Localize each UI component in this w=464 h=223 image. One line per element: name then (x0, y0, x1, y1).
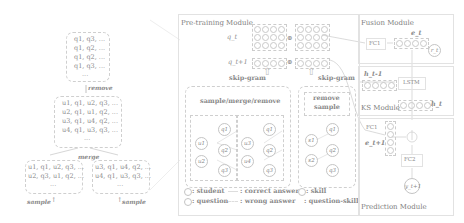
fc1-label: FC1 (369, 39, 381, 47)
question-node: q2 (326, 144, 339, 157)
student-legend-icon (184, 188, 192, 196)
fc2-label: FC2 (404, 155, 416, 163)
seq-line: u1, q1, u2, q3, ... (28, 163, 84, 171)
remove-label: remove (88, 84, 113, 92)
question-legend-icon (184, 198, 192, 206)
concat-icon: ⊕ (287, 34, 292, 42)
prediction-output-node: y_t+1 (404, 178, 420, 194)
question-node: q3 (218, 164, 231, 177)
fusion-title: Fusion Module (361, 19, 414, 27)
seq-line: u4, q1, u3, q3, ... (95, 172, 151, 180)
seq-line: u4, q1, u3, q3, ... (62, 126, 118, 134)
q-t-label: q_t (227, 33, 237, 41)
seq-line: q1, q2, ... (74, 53, 105, 61)
seq-line: q1, q3, ... (74, 35, 105, 43)
sample-label-left: sample (27, 198, 51, 206)
next-question-embedding (385, 121, 396, 156)
seq-line: q1, q3, ... (74, 62, 105, 70)
question-node: q1 (326, 123, 339, 136)
question-node: q1 (218, 123, 231, 136)
seq-line: ... (82, 70, 88, 78)
student-node: u4 (241, 155, 254, 168)
h-prev-label: h_t-1 (364, 70, 382, 78)
hidden-state-vector (398, 100, 433, 111)
fused-embedding (394, 38, 429, 49)
student-node: u2 (195, 155, 208, 168)
legend-skill: : skill (306, 187, 326, 195)
question-node: q2 (218, 144, 231, 157)
legend-correct: : correct answer (240, 187, 299, 195)
sample-label-right: sample (122, 198, 146, 206)
prediction-title: Prediction Module (361, 203, 427, 211)
remove-label: remove (313, 94, 340, 102)
seq-line: q1, q2, ... (74, 44, 105, 52)
h-t-label: h_t (431, 100, 442, 108)
lstm-label: LSTM (403, 78, 420, 86)
e-t-label: e_t (411, 29, 421, 37)
skip-gram-label-right: skip-gram (318, 74, 355, 82)
skill-node: s1 (305, 134, 318, 147)
q-t1-label: q_t+1 (228, 58, 248, 66)
skip-gram-label-left: skip-gram (229, 74, 266, 82)
skill-embedding-matrix (295, 24, 330, 51)
arrow-up-icon: ⇧ (263, 68, 271, 76)
response-node: r_t (428, 44, 441, 57)
legend-question-skill: : question-skill (304, 197, 359, 205)
legend-student: : student (192, 187, 224, 195)
student-node: u1 (195, 137, 208, 150)
seq-line: ... (117, 180, 123, 188)
question-node: q1 (263, 123, 276, 136)
hidden-prev-vector (362, 80, 397, 91)
e-next-label: e_t+1 (365, 139, 385, 147)
prediction-module (358, 118, 454, 216)
seq-line: ... (50, 180, 56, 188)
arrow-up-icon: ↑ (51, 196, 56, 204)
seq-line: u3, q1, u4, q2, ... (62, 117, 118, 125)
legend-question: : question (192, 197, 228, 205)
ks-title: KS Module (361, 104, 400, 112)
arrow-up-icon: ⇧ (307, 68, 315, 76)
question-node: q3 (326, 164, 339, 177)
seq-line: u2, q1, u1, q2, ... (62, 108, 118, 116)
seq-line: u2, q3, u1, q2, ... (28, 172, 84, 180)
legend-wrong: : wrong answer (240, 197, 295, 205)
sample-label: sample (314, 103, 340, 111)
skill-node: s2 (305, 154, 318, 167)
seq-line: u1, q1, u2, q3, ... (62, 99, 118, 107)
fc1-label: FC1 (366, 123, 378, 131)
question-node: q2 (263, 144, 276, 157)
skill-legend-icon (298, 188, 306, 196)
student-node: u3 (241, 137, 254, 150)
wrong-line-icon (228, 201, 238, 202)
pretraining-title: Pre-training Module (181, 19, 253, 27)
seq-line: u3, q1, u4, q2, ... (95, 163, 151, 171)
correct-line-icon (228, 191, 238, 192)
question-embedding-matrix (252, 24, 287, 51)
smr-label: sample/merge/remove (200, 97, 280, 105)
concat-icon: ⊕ (287, 58, 292, 66)
seq-line: ... (84, 134, 90, 142)
question-node: q3 (263, 164, 276, 177)
